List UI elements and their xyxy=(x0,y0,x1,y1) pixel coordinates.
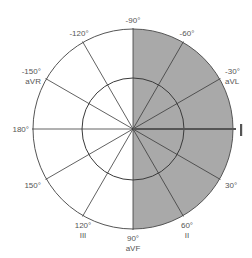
degree-label: 120° xyxy=(75,221,92,230)
axis-label: -60° xyxy=(180,29,195,38)
axis-label: -120° xyxy=(69,29,88,38)
axis-label: 30° xyxy=(225,181,237,190)
hexaxial-diagram: -90°-60°-30°aVL30°60°II90°aVF120°III150°… xyxy=(0,0,252,258)
axis-label: -150°aVR xyxy=(22,67,41,86)
lead-label: aVR xyxy=(25,77,41,86)
axis-label: -90° xyxy=(126,16,141,25)
lead-i-marker xyxy=(240,124,242,136)
degree-label: -150° xyxy=(22,67,41,76)
lead-label: III xyxy=(80,231,87,240)
axis-label: 180° xyxy=(12,125,29,134)
lead-label: aVF xyxy=(126,244,141,253)
degree-label: -90° xyxy=(126,16,141,25)
axis-line xyxy=(46,79,133,130)
degree-label: -60° xyxy=(180,29,195,38)
axis-label: 120°III xyxy=(75,221,92,240)
degree-label: -120° xyxy=(69,29,88,38)
degree-label: -30° xyxy=(225,67,240,76)
axis-line xyxy=(46,129,133,180)
axis-label: 150° xyxy=(24,181,41,190)
axis-label: -30°aVL xyxy=(225,67,240,86)
lead-label: II xyxy=(185,231,189,240)
degree-label: 150° xyxy=(24,181,41,190)
lead-label: aVL xyxy=(225,77,240,86)
axis-line xyxy=(83,42,134,129)
axis-label: 60°II xyxy=(181,221,193,240)
degree-label: 180° xyxy=(12,125,29,134)
degree-label: 90° xyxy=(127,234,139,243)
axis-line xyxy=(83,129,134,216)
axis-label: 90°aVF xyxy=(126,234,141,253)
degree-label: 30° xyxy=(225,181,237,190)
degree-label: 60° xyxy=(181,221,193,230)
